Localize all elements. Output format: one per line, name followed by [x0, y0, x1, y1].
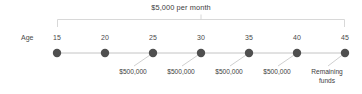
- timeline-dot-25: [149, 49, 157, 57]
- tick-label-15: 15: [45, 34, 69, 41]
- timeline-diagram: $5,000 per month Age 15 20 25 30 35 40 4…: [0, 0, 362, 94]
- timeline-dot-40: [293, 49, 301, 57]
- timeline-dot-15: [53, 49, 61, 57]
- tick-label-45: 45: [333, 34, 357, 41]
- timeline-dot-20: [101, 49, 109, 57]
- timeline-dot-30: [197, 49, 205, 57]
- span-bracket: [0, 14, 362, 28]
- callout-label-45: Remaining funds: [299, 68, 355, 85]
- tick-label-20: 20: [93, 34, 117, 41]
- timeline-dot-45: [341, 49, 349, 57]
- tick-label-40: 40: [285, 34, 309, 41]
- tick-label-25: 25: [141, 34, 165, 41]
- tick-label-35: 35: [237, 34, 261, 41]
- tick-label-30: 30: [189, 34, 213, 41]
- axis-name-label: Age: [21, 34, 33, 41]
- diagram-title: $5,000 per month: [0, 3, 362, 12]
- timeline-dot-35: [245, 49, 253, 57]
- callout-label-40: $500,000: [249, 68, 305, 77]
